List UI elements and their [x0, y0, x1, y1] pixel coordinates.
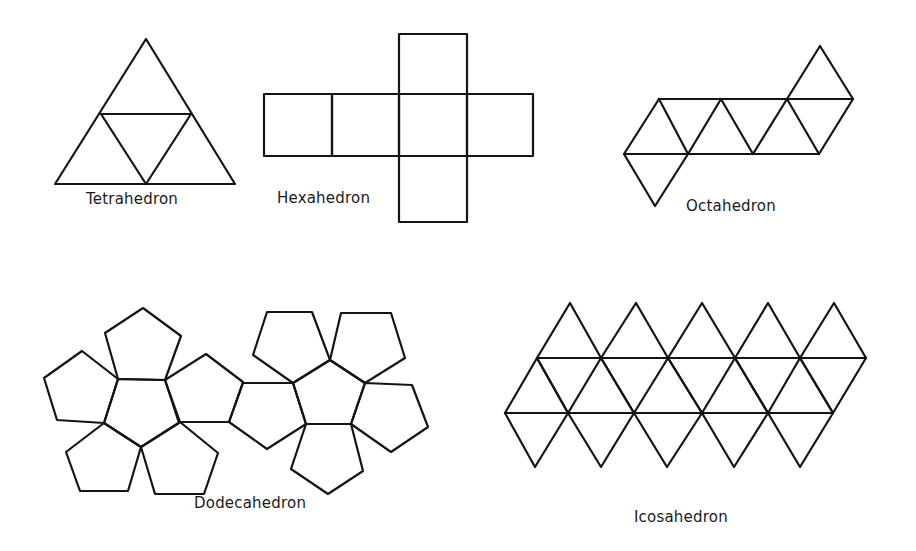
face-edge: [330, 313, 405, 383]
face-edge: [55, 39, 235, 184]
face-edge: [537, 303, 866, 358]
polyhedra-nets-figure: [0, 0, 916, 551]
label-dodecahedron: Dodecahedron: [194, 494, 306, 512]
face-edge: [505, 413, 833, 467]
face-edge: [467, 94, 533, 156]
label-tetrahedron: Tetrahedron: [86, 190, 178, 208]
face-edge: [399, 34, 467, 94]
face-edge: [66, 423, 141, 491]
net-dodecahedron: [44, 308, 428, 494]
label-hexahedron: Hexahedron: [277, 189, 370, 207]
net-octahedron: [624, 46, 853, 206]
face-edge: [229, 383, 306, 449]
face-edge: [800, 358, 833, 413]
face-edge: [351, 383, 428, 452]
label-octahedron: Octahedron: [686, 197, 776, 215]
face-edge: [668, 358, 702, 413]
face-edge: [44, 351, 118, 423]
face-edge: [165, 354, 243, 422]
face-edge: [624, 99, 688, 206]
face-edge: [537, 358, 568, 413]
face-edge: [291, 424, 363, 494]
face-edge: [101, 114, 191, 184]
label-icosahedron: Icosahedron: [634, 508, 728, 526]
face-edge: [399, 156, 467, 222]
face-edge: [399, 94, 467, 156]
net-tetrahedron: [55, 39, 235, 184]
net-icosahedron: [505, 303, 866, 467]
face-edge: [105, 308, 181, 380]
face-edge: [141, 422, 218, 494]
face-edge: [253, 312, 330, 383]
face-edge: [601, 358, 634, 413]
face-edge: [735, 358, 768, 413]
face-edge: [264, 94, 332, 156]
face-edge: [332, 94, 399, 156]
